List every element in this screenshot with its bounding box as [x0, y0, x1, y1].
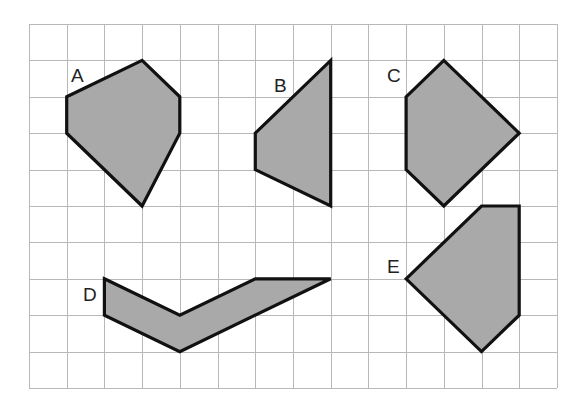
shapes-on-grid-diagram: ABCDE: [0, 0, 581, 406]
shape-label: B: [274, 75, 287, 96]
shape-label: A: [71, 65, 84, 86]
shape-polygon: [406, 206, 519, 352]
shape-polygon: [406, 60, 519, 206]
shape-label: E: [387, 256, 400, 277]
shape-label: C: [387, 65, 401, 86]
shape-label: D: [83, 284, 97, 305]
shape-a: A: [67, 60, 180, 206]
